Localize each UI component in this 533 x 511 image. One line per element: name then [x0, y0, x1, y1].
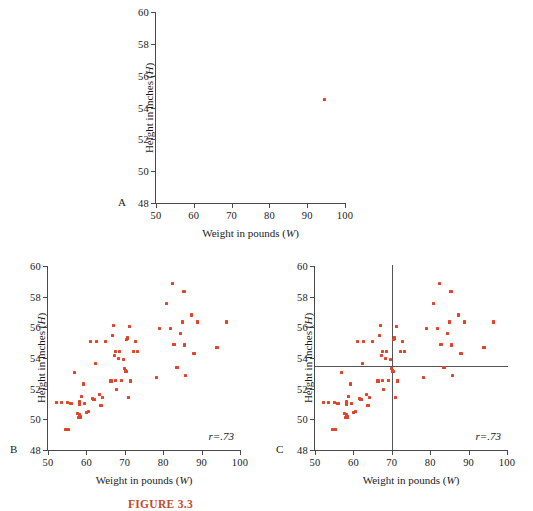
- scatter-point: [361, 362, 364, 365]
- panel-a: 485052545658605060708090100 Height in in…: [0, 0, 533, 250]
- scatter-point: [129, 379, 132, 382]
- scatter-point: [463, 320, 466, 323]
- scatter-point: [175, 366, 178, 369]
- scatter-point: [83, 402, 86, 405]
- scatter-point: [101, 396, 104, 399]
- scatter-point: [118, 350, 121, 353]
- scatter-point: [172, 343, 175, 346]
- scatter-point: [336, 402, 339, 405]
- x-axis-tick: [430, 450, 431, 455]
- scatter-point: [134, 340, 137, 343]
- scatter-point: [347, 395, 350, 398]
- scatter-point: [117, 357, 120, 360]
- y-axis-tick-label: 60: [138, 7, 149, 18]
- scatter-point: [482, 346, 485, 349]
- scatter-point: [111, 334, 114, 337]
- x-axis-tick-label: 60: [348, 457, 359, 468]
- x-axis-tick-label: 80: [425, 457, 436, 468]
- panel-b-correlation-label: r=.73: [209, 430, 234, 442]
- x-axis-tick: [469, 450, 470, 455]
- scatter-point: [113, 354, 116, 357]
- scatter-point: [99, 404, 102, 407]
- x-axis-tick: [345, 203, 346, 208]
- scatter-point: [399, 350, 402, 353]
- x-axis-tick-label: 50: [310, 457, 321, 468]
- scatter-point: [380, 354, 383, 357]
- x-axis-tick: [307, 203, 308, 208]
- scatter-point: [359, 398, 362, 401]
- scatter-point: [432, 302, 435, 305]
- scatter-point: [60, 401, 63, 404]
- y-axis-tick: [151, 171, 156, 172]
- x-axis-tick-label: 80: [158, 457, 169, 468]
- scatter-point: [446, 332, 449, 335]
- scatter-point: [395, 325, 398, 328]
- x-axis-tick: [86, 450, 87, 455]
- scatter-point: [132, 350, 135, 353]
- scatter-point: [114, 350, 117, 353]
- scatter-point: [179, 332, 182, 335]
- x-axis-tick: [315, 450, 316, 455]
- x-axis-tick-label: 100: [499, 457, 515, 468]
- scatter-point: [393, 336, 396, 339]
- scatter-point: [450, 343, 453, 346]
- scatter-point: [155, 376, 158, 379]
- scatter-point: [183, 343, 186, 346]
- scatter-point: [184, 374, 187, 377]
- y-axis-tick-label: 60: [30, 261, 41, 272]
- scatter-point: [136, 350, 139, 353]
- scatter-point: [190, 313, 193, 316]
- scatter-point: [80, 395, 83, 398]
- x-axis-tick: [232, 203, 233, 208]
- scatter-point: [401, 340, 404, 343]
- horizontal-reference-line: [315, 366, 508, 367]
- scatter-point: [379, 324, 382, 327]
- y-axis-tick: [151, 44, 156, 45]
- scatter-point: [94, 362, 97, 365]
- scatter-point: [448, 320, 451, 323]
- y-axis-tick-label: 48: [297, 445, 308, 456]
- scatter-point: [334, 428, 337, 431]
- scatter-point: [349, 382, 352, 385]
- x-axis-tick-label: 100: [232, 457, 248, 468]
- x-axis-tick: [125, 450, 126, 455]
- scatter-point: [376, 379, 379, 382]
- x-axis-tick-label: 70: [226, 210, 237, 221]
- y-axis-tick: [310, 297, 315, 298]
- scatter-point: [371, 340, 374, 343]
- x-axis-tick-label: 90: [463, 457, 474, 468]
- x-axis-tick-label: 70: [119, 457, 130, 468]
- scatter-point: [112, 324, 115, 327]
- scatter-point: [403, 350, 406, 353]
- scatter-point: [73, 371, 76, 374]
- scatter-point: [451, 374, 454, 377]
- x-axis-tick: [269, 203, 270, 208]
- scatter-point: [439, 343, 442, 346]
- scatter-point: [442, 366, 445, 369]
- panel-a-plot-area: 485052545658605060708090100 Height in in…: [155, 12, 345, 204]
- panel-c-plot-area: 485052545658605060708090100 Height in in…: [314, 266, 507, 451]
- scatter-point: [126, 336, 129, 339]
- scatter-point: [115, 388, 118, 391]
- y-axis-tick: [310, 266, 315, 267]
- scatter-point: [158, 327, 161, 330]
- panel-a-x-axis-title: Weight in pounds (W): [202, 227, 299, 239]
- scatter-point: [128, 325, 131, 328]
- scatter-point: [79, 415, 82, 418]
- scatter-point: [384, 357, 387, 360]
- scatter-point: [438, 282, 441, 285]
- panel-b-points-layer: 485052545658605060708090100: [48, 266, 240, 450]
- panel-c-letter: C: [276, 443, 283, 455]
- scatter-point: [350, 402, 353, 405]
- scatter-point: [215, 346, 218, 349]
- y-axis-tick: [43, 419, 48, 420]
- y-axis-tick-label: 50: [30, 414, 41, 425]
- scatter-point: [109, 379, 112, 382]
- y-axis-tick-label: 50: [138, 166, 149, 177]
- scatter-point: [354, 410, 357, 413]
- scatter-point: [169, 327, 172, 330]
- scatter-point: [67, 428, 70, 431]
- x-axis-tick-label: 50: [151, 210, 162, 221]
- scatter-point: [378, 334, 381, 337]
- panel-c-correlation-label: r=.73: [476, 430, 501, 442]
